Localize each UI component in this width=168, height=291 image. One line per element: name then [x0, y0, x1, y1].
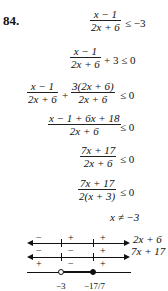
step-5-relation: ≤ 0 — [120, 153, 134, 165]
critical-point-label: −17/7 — [84, 281, 105, 291]
factor-label: 2x + 6 — [133, 233, 162, 245]
sign: − — [68, 259, 74, 269]
numerator: x − 1 + 6x + 18 — [48, 112, 121, 124]
critical-point-label: −3 — [56, 281, 66, 291]
arrow-right-icon — [124, 240, 130, 246]
denominator: 2x + 6 — [83, 157, 114, 169]
sign: + — [100, 259, 106, 269]
tick — [93, 253, 94, 261]
denominator: 2(x + 3) — [78, 190, 116, 202]
step-1-fraction: x − 1 2x + 6 — [90, 8, 121, 33]
sign: + — [100, 233, 106, 243]
sign: + — [36, 259, 42, 269]
sign: + — [100, 246, 106, 256]
denominator: 2x + 6 — [77, 93, 108, 105]
step-3-fraction-b: 3(2x + 6) 2x + 6 — [71, 80, 115, 105]
open-point-icon — [58, 269, 64, 275]
denominator: 2x + 6 — [27, 93, 58, 105]
numerator: x − 1 — [30, 80, 55, 92]
factor-label: 7x + 17 — [131, 245, 165, 257]
number-line-row-2 — [30, 257, 124, 258]
sign: + — [68, 233, 74, 243]
tick — [61, 239, 62, 247]
step-1-relation: ≤ −3 — [125, 17, 146, 29]
sign: − — [68, 246, 74, 256]
denominator: 2x + 6 — [70, 58, 101, 70]
step-4-relation: ≤ 0 — [120, 121, 134, 133]
number-line-row-1 — [30, 243, 124, 244]
arrow-right-icon — [124, 254, 130, 260]
numerator: x − 1 — [93, 8, 118, 20]
step-5-fraction: 7x + 17 2x + 6 — [80, 144, 116, 169]
denominator: 2x + 6 — [90, 21, 121, 33]
step-3-fraction-a: x − 1 2x + 6 — [27, 80, 58, 105]
denominator: 2x + 6 — [69, 125, 100, 137]
numerator: 3(2x + 6) — [71, 80, 115, 92]
restriction: x ≠ −3 — [110, 211, 139, 223]
step-2-fraction: x − 1 2x + 6 — [70, 45, 101, 70]
tick — [93, 239, 94, 247]
step-4-fraction: x − 1 + 6x + 18 2x + 6 — [48, 112, 121, 137]
numerator: 7x + 17 — [79, 177, 115, 189]
step-2-relation: + 3 ≤ 0 — [104, 54, 136, 66]
numerator: 7x + 17 — [80, 144, 116, 156]
step-3-relation: ≤ 0 — [120, 89, 134, 101]
sign: − — [36, 246, 42, 256]
closed-point-icon — [90, 269, 96, 275]
problem-number: 84. — [3, 13, 19, 29]
step-6-fraction: 7x + 17 2(x + 3) — [78, 177, 116, 202]
numerator: x − 1 — [73, 45, 98, 57]
tick — [61, 253, 62, 261]
sign: − — [36, 233, 42, 243]
step-3-operator: + — [62, 89, 68, 101]
step-6-relation: ≤ 0 — [120, 186, 134, 198]
